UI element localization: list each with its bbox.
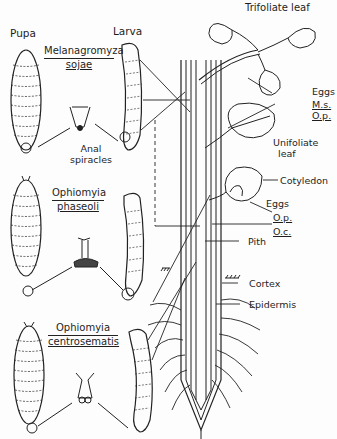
species-3-epithet: centrosematis: [48, 336, 118, 348]
spiracle-2-drawing: [32, 238, 123, 290]
species-label-2: Ophiomyia phaseoli: [52, 187, 104, 213]
spiracle-1-drawing: [38, 107, 118, 147]
pith-label: Pith: [248, 236, 266, 247]
anal-spiracles-label: Anal spiracles: [70, 143, 112, 165]
species-1-epithet: sojae: [44, 59, 114, 71]
pupa-2-drawing: [11, 176, 41, 296]
larva-2-drawing: [122, 193, 144, 300]
spiracle-3-drawing: [38, 373, 128, 428]
species-label-3: Ophiomyia centrosematis: [48, 322, 118, 348]
pupa-1-drawing: [11, 50, 41, 153]
pupa-3-drawing: [14, 322, 44, 433]
epidermis-label: Epidermis: [249, 299, 296, 310]
op-label-mid: O.p.: [273, 212, 292, 223]
larva-1-drawing: [120, 43, 142, 150]
larva-3-drawing: [129, 329, 152, 432]
trifoliate-leaf-label: Trifoliate leaf: [245, 2, 310, 13]
species-2-epithet: phaseoli: [52, 201, 104, 213]
pupa-header: Pupa: [10, 28, 36, 39]
stem-drawing: [148, 60, 260, 439]
larva-header: Larva: [113, 26, 142, 37]
species-3-genus: Ophiomyia: [48, 322, 118, 336]
op-label-top: O.p.: [312, 110, 331, 121]
eggs-label-top: Eggs: [312, 86, 335, 97]
unifoliate-label-line2: leaf: [278, 148, 296, 159]
oc-label: O.c.: [273, 226, 291, 237]
eggs-label-mid: Eggs: [266, 198, 289, 209]
unifoliate-label-line1: Unifoliate: [273, 137, 318, 148]
bean-fly-diagram: Pupa Larva Melanagromyza sojae Anal spir…: [0, 0, 337, 439]
cortex-label: Cortex: [249, 278, 280, 289]
species-2-genus: Ophiomyia: [52, 187, 104, 201]
cotyledon-label: Cotyledon: [280, 175, 328, 186]
species-label-1: Melanagromyza sojae: [44, 45, 114, 71]
ms-label: M.s.: [312, 99, 331, 110]
species-1-genus: Melanagromyza: [44, 45, 114, 59]
cotyledon-drawing: [209, 167, 262, 201]
